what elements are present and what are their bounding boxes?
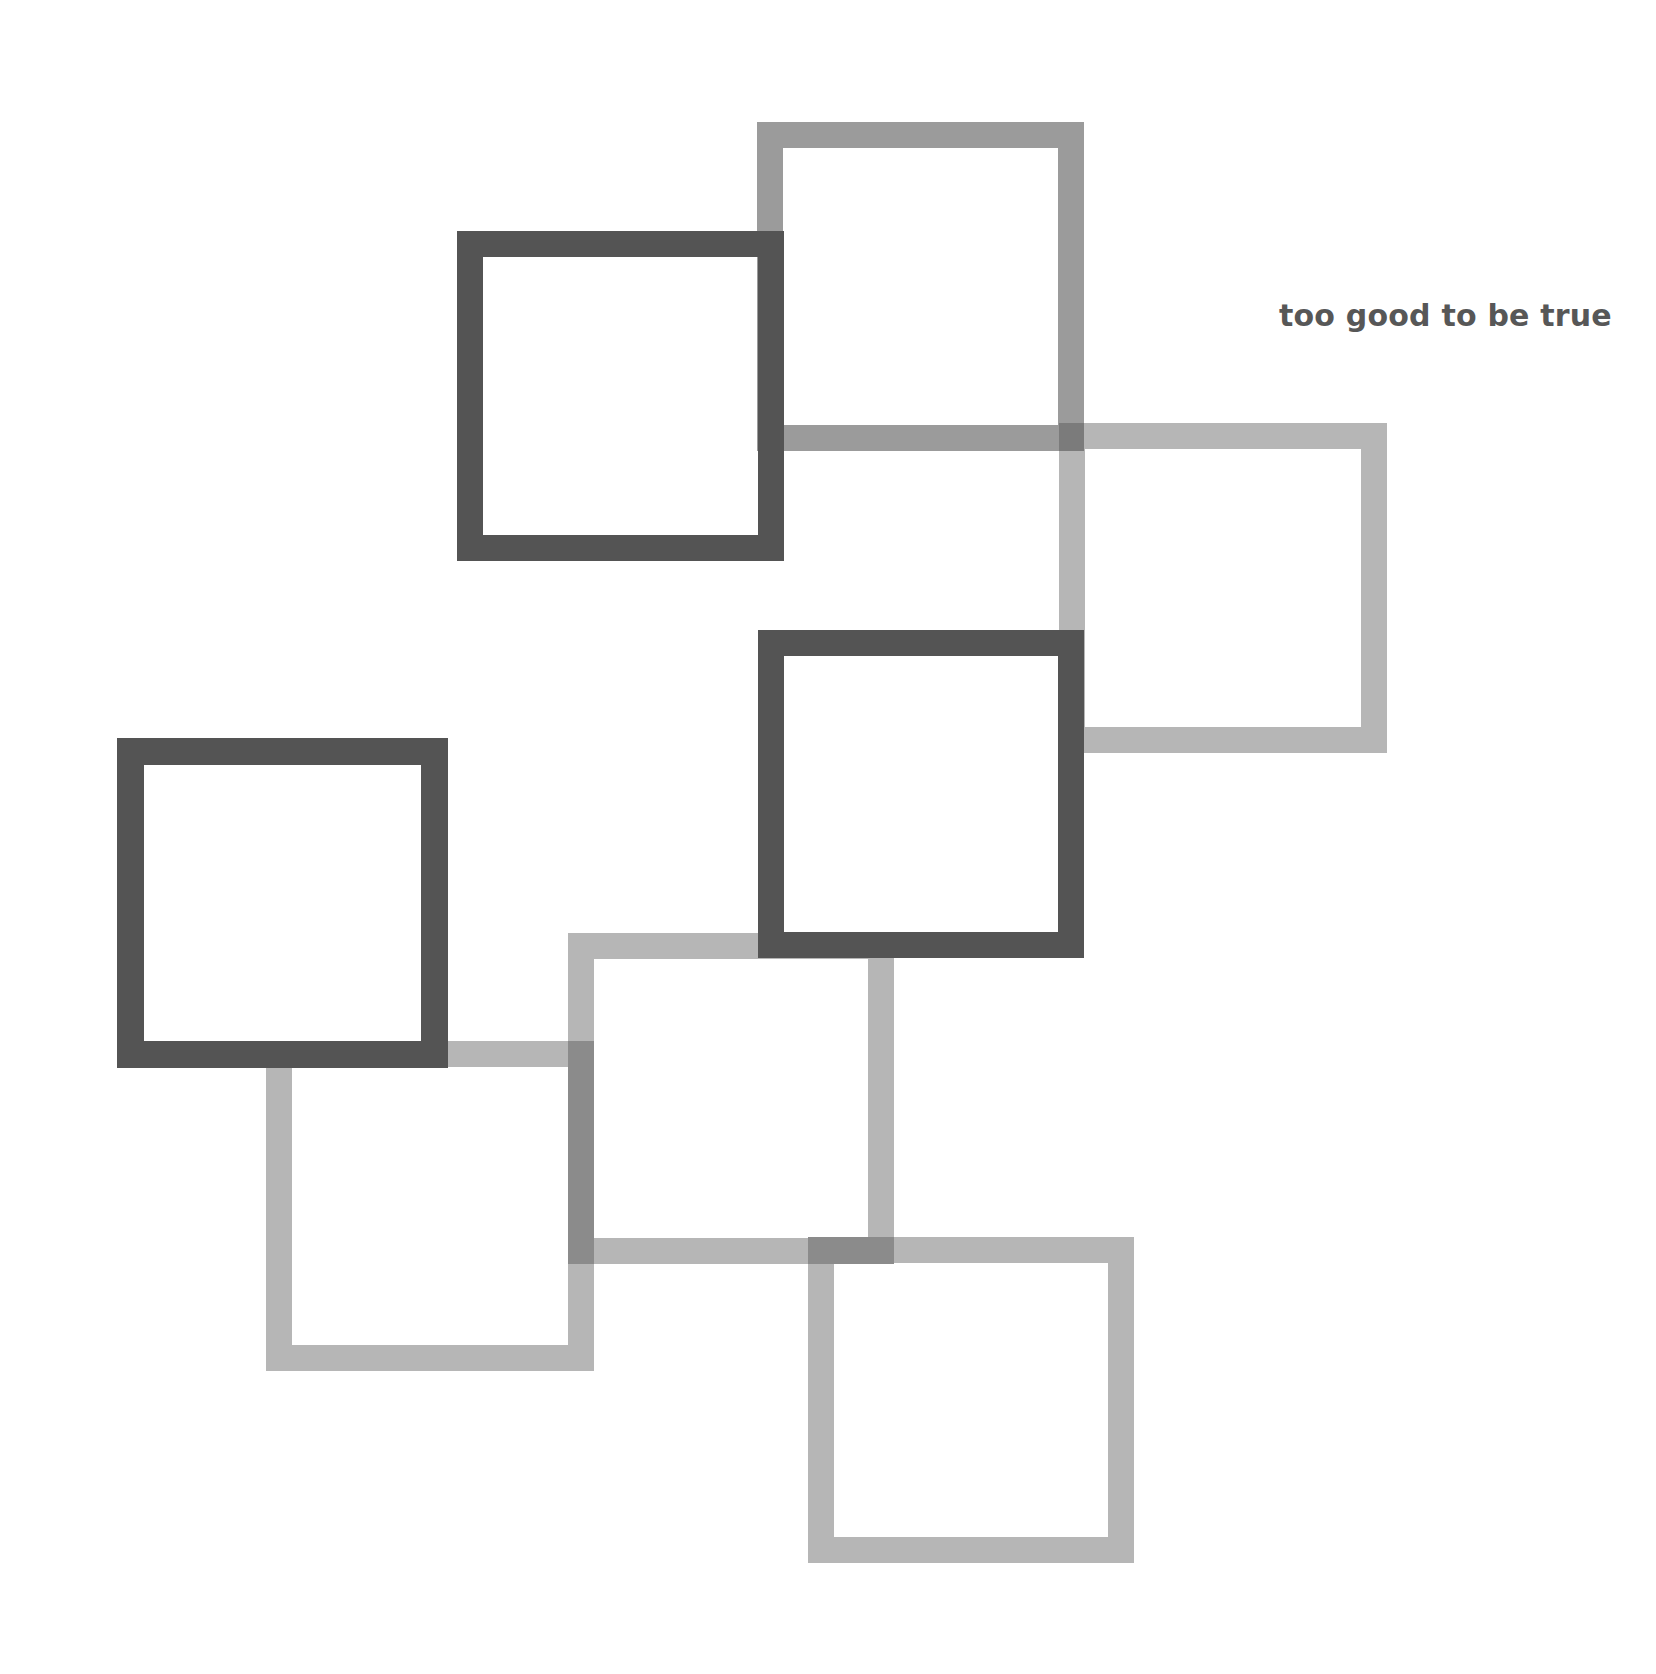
- square-light-bottom-left: [266, 1041, 594, 1371]
- artwork-canvas: too good to be true: [0, 0, 1656, 1674]
- overlap-patch-f-g: [568, 1041, 594, 1264]
- square-dark-top-left: [457, 231, 784, 561]
- square-light-middle-bottom: [568, 933, 894, 1264]
- caption-text: too good to be true: [1279, 296, 1612, 336]
- overlap-patch-b-c: [1059, 423, 1084, 451]
- square-light-bottom: [808, 1237, 1134, 1563]
- square-dark-center: [758, 630, 1084, 958]
- overlap-patch-g-h: [808, 1237, 894, 1264]
- square-medium-top: [757, 122, 1084, 451]
- square-dark-left: [117, 738, 448, 1068]
- square-light-right: [1059, 423, 1387, 753]
